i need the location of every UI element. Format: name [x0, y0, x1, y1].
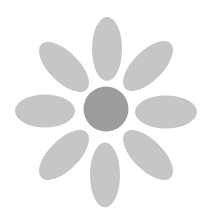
flower-icon: [0, 0, 208, 218]
petal-bottom-left: [31, 122, 97, 188]
petal-top: [92, 17, 122, 81]
petal-right: [135, 96, 197, 129]
petal-bottom-right: [115, 122, 181, 188]
petal-left: [15, 95, 75, 128]
petal-top-left: [31, 34, 97, 100]
petal-bottom: [90, 143, 120, 208]
flower-illustration: [0, 0, 208, 218]
flower-center: [84, 87, 129, 132]
petal-top-right: [115, 33, 181, 99]
